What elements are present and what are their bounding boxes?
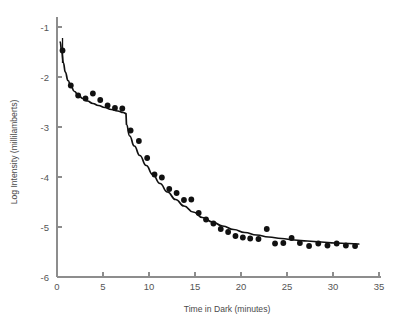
data-point xyxy=(83,96,89,102)
y-tick-labels: -6-5-4-3-2-1 xyxy=(41,22,49,283)
axes-group xyxy=(57,17,381,277)
data-point xyxy=(280,240,286,246)
data-point xyxy=(272,241,278,247)
data-point xyxy=(105,103,111,109)
data-point xyxy=(297,240,303,246)
data-point xyxy=(240,235,246,241)
y-tick-label: -2 xyxy=(41,72,49,83)
x-axis-title: Time in Dark (minutes) xyxy=(184,304,271,314)
x-tick-label: 35 xyxy=(374,281,385,292)
data-point xyxy=(136,138,142,144)
data-point xyxy=(256,236,262,242)
data-point xyxy=(144,155,150,161)
data-point xyxy=(247,236,253,242)
tick-marks-group xyxy=(57,27,379,277)
data-point xyxy=(325,243,331,249)
data-point xyxy=(264,226,270,232)
data-point xyxy=(203,217,209,223)
data-point xyxy=(90,91,96,97)
data-point xyxy=(174,190,180,196)
data-point xyxy=(159,175,165,181)
x-tick-label: 25 xyxy=(282,281,293,292)
y-tick-label: -3 xyxy=(41,122,49,133)
data-point xyxy=(334,241,340,247)
fitted-curve xyxy=(60,42,359,244)
data-point xyxy=(166,186,172,192)
figure-container: 05101520253035 -6-5-4-3-2-1 Time in Dark… xyxy=(0,0,417,324)
data-point xyxy=(196,210,202,216)
y-axis-title: Log Intensity (millilamberts) xyxy=(9,100,19,205)
data-point xyxy=(233,233,239,239)
data-point xyxy=(128,128,134,134)
data-point xyxy=(188,197,194,203)
data-point xyxy=(218,226,224,232)
y-tick-label: -4 xyxy=(41,172,49,183)
data-point xyxy=(68,83,74,89)
data-point xyxy=(75,93,81,99)
data-point xyxy=(211,221,217,227)
data-point xyxy=(181,197,187,203)
data-point xyxy=(112,105,118,111)
x-tick-label: 15 xyxy=(190,281,201,292)
x-tick-label: 10 xyxy=(144,281,155,292)
data-point xyxy=(97,97,103,103)
y-tick-label: -1 xyxy=(41,22,49,33)
data-point xyxy=(289,235,295,241)
data-point xyxy=(306,243,312,249)
x-tick-labels: 05101520253035 xyxy=(54,281,384,292)
x-tick-label: 20 xyxy=(236,281,247,292)
x-tick-label: 30 xyxy=(328,281,339,292)
data-points-group xyxy=(60,48,358,249)
data-point xyxy=(60,48,66,54)
data-point xyxy=(315,241,321,247)
data-point xyxy=(225,229,231,235)
x-tick-label: 0 xyxy=(54,281,59,292)
y-tick-label: -6 xyxy=(41,272,49,283)
y-tick-label: -5 xyxy=(41,222,49,233)
data-point xyxy=(352,243,358,249)
dark-adaptation-chart: 05101520253035 -6-5-4-3-2-1 Time in Dark… xyxy=(0,0,417,324)
data-point xyxy=(152,172,158,178)
data-point xyxy=(119,106,125,112)
x-tick-label: 5 xyxy=(100,281,105,292)
data-point xyxy=(343,243,349,249)
fitted-curve-group xyxy=(60,42,359,244)
